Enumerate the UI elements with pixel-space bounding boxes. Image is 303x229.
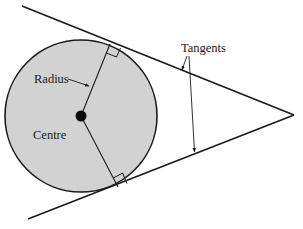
- tangents-label: Tangents: [181, 41, 226, 55]
- tangents-arrow-lower: [189, 56, 195, 152]
- radius-label: Radius: [34, 72, 69, 86]
- centre-label: Centre: [33, 128, 67, 142]
- centre-point: [76, 111, 87, 122]
- tangents-arrow-upper: [182, 56, 187, 70]
- tangent-diagram: Radius Centre Tangents: [0, 0, 303, 229]
